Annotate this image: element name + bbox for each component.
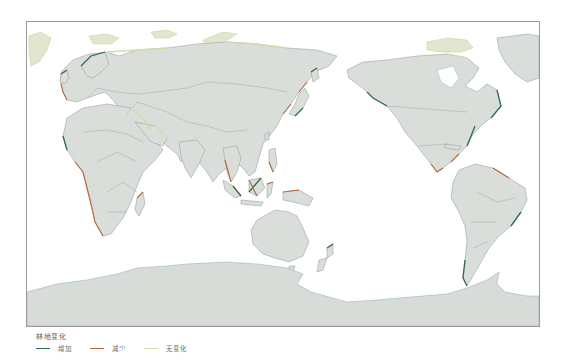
india: [179, 140, 205, 178]
legend-swatch-no-change: [144, 348, 158, 349]
legend: 林地变化 增加 减少 无变化: [36, 331, 336, 359]
north-america: [347, 54, 501, 172]
greenland: [497, 34, 539, 82]
sumatra: [223, 180, 241, 198]
legend-item-decrease: 减少: [90, 343, 126, 353]
sulawesi: [267, 182, 273, 198]
legend-label-decrease: 减少: [112, 343, 126, 353]
legend-swatch-increase: [36, 348, 50, 349]
map-frame: [26, 21, 540, 327]
legend-title: 林地变化: [36, 331, 66, 341]
legend-item-increase: 增加: [36, 343, 72, 353]
new-zealand: [317, 244, 333, 272]
borneo: [249, 178, 265, 196]
australia: [251, 210, 309, 262]
antarctica: [27, 262, 539, 326]
arctic-island: [89, 34, 119, 44]
philippines: [269, 148, 277, 172]
new-guinea: [283, 190, 313, 206]
legend-label-increase: 增加: [58, 343, 72, 353]
legend-label-no-change: 无变化: [166, 343, 187, 353]
legend-item-no-change: 无变化: [144, 343, 187, 353]
legend-swatch-decrease: [90, 348, 104, 349]
arctic-island: [151, 30, 177, 38]
world-map: [27, 22, 539, 326]
java: [241, 200, 263, 206]
south-america: [451, 164, 527, 286]
canadian-arctic: [427, 38, 473, 52]
svalbard-region: [29, 32, 51, 66]
